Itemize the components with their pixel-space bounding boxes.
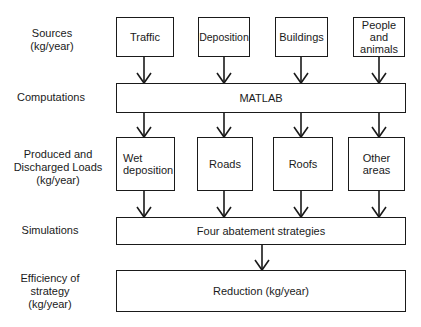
- row-label-loads: Produced and Discharged Loads (kg/year): [8, 148, 108, 187]
- row-label-simulations: Simulations: [10, 224, 90, 237]
- load-box-wet-deposition: Wet deposition: [116, 137, 175, 191]
- load-box-other-areas: Other areas: [348, 137, 405, 191]
- load-box-roads: Roads: [197, 137, 253, 191]
- row-label-efficiency: Efficiency of strategy (kg/year): [12, 272, 88, 311]
- source-box-deposition: Deposition: [198, 17, 250, 57]
- source-box-people-animals: People and animals: [353, 17, 405, 57]
- computation-box-matlab: MATLAB: [116, 83, 406, 113]
- row-label-sources: Sources (kg/year): [14, 27, 90, 53]
- source-box-traffic: Traffic: [116, 17, 174, 57]
- load-box-roofs: Roofs: [273, 137, 333, 191]
- row-label-computations: Computations: [6, 91, 96, 104]
- simulation-box-abatement: Four abatement strategies: [116, 217, 406, 245]
- source-box-buildings: Buildings: [275, 17, 328, 57]
- result-box-reduction: Reduction (kg/year): [116, 270, 406, 312]
